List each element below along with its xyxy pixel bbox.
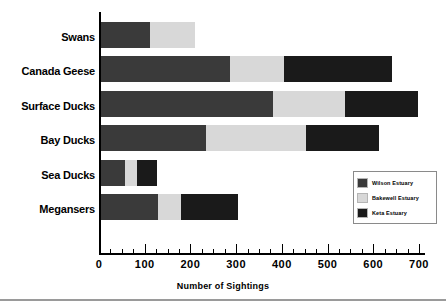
category-label: Bay Ducks: [3, 135, 95, 146]
category-label: Canada Geese: [3, 66, 95, 77]
x-tick-label: 400: [262, 258, 302, 270]
bar-segment-bakewell: [273, 91, 346, 117]
x-tick-label: 100: [125, 258, 165, 270]
x-tick-label: 200: [170, 258, 210, 270]
bar-segment-keta: [137, 160, 157, 186]
legend-label: Wilson Estuary: [372, 180, 413, 186]
bar-row: [100, 125, 379, 151]
bar-segment-keta: [345, 91, 417, 117]
bar-segment-wilson: [100, 91, 273, 117]
x-tick-minor: [202, 249, 203, 253]
x-tick-label: 700: [399, 258, 439, 270]
bar-segment-keta: [306, 125, 379, 151]
category-label: Surface Ducks: [3, 101, 95, 112]
x-tick-major: [282, 244, 283, 253]
legend-item: Wilson Estuary: [357, 176, 433, 190]
x-tick-minor: [293, 249, 294, 253]
legend-swatch-bakewell: [357, 193, 368, 203]
legend-label: Bakewell Estuary: [372, 195, 419, 201]
bar-segment-bakewell: [230, 56, 283, 82]
x-tick-minor: [179, 249, 180, 253]
bar-row: [100, 56, 392, 82]
x-axis-line: 0100200300400500600700: [99, 253, 425, 255]
x-tick-minor: [248, 249, 249, 253]
chart-legend: Wilson EstuaryBakewell EstuaryKeta Estua…: [353, 171, 437, 224]
x-tick-minor: [270, 249, 271, 253]
bar-segment-wilson: [100, 125, 206, 151]
bar-segment-bakewell: [150, 22, 194, 48]
x-tick-major: [145, 244, 146, 253]
x-tick-minor: [133, 249, 134, 253]
bar-row: [100, 22, 195, 48]
x-tick-major: [99, 244, 100, 253]
x-tick-major: [328, 244, 329, 253]
x-tick-minor: [110, 249, 111, 253]
bar-row: [100, 160, 157, 186]
category-axis-labels: SwansCanada GeeseSurface DucksBay DucksS…: [0, 0, 95, 240]
bar-segment-wilson: [100, 22, 150, 48]
bar-segment-wilson: [100, 56, 230, 82]
category-label: Swans: [3, 32, 95, 43]
x-tick-minor: [316, 249, 317, 253]
bar-segment-wilson: [100, 160, 125, 186]
bar-row: [100, 194, 238, 220]
x-tick-minor: [168, 249, 169, 253]
x-tick-minor: [385, 249, 386, 253]
y-axis-line: [99, 12, 101, 254]
x-tick-minor: [225, 249, 226, 253]
x-tick-label: 0: [79, 258, 119, 270]
x-tick-minor: [305, 249, 306, 253]
x-tick-major: [419, 244, 420, 253]
x-tick-minor: [213, 249, 214, 253]
x-tick-major: [190, 244, 191, 253]
bar-segment-keta: [284, 56, 392, 82]
bottom-divider: [0, 299, 446, 301]
legend-swatch-keta: [357, 208, 368, 218]
x-tick-label: 500: [308, 258, 348, 270]
x-tick-major: [373, 244, 374, 253]
x-tick-minor: [362, 249, 363, 253]
x-tick-minor: [408, 249, 409, 253]
legend-swatch-wilson: [357, 178, 368, 188]
bar-segment-bakewell: [158, 194, 181, 220]
bar-chart: SwansCanada GeeseSurface DucksBay DucksS…: [0, 0, 446, 305]
bar-row: [100, 91, 418, 117]
x-tick-minor: [396, 249, 397, 253]
x-tick-minor: [350, 249, 351, 253]
x-tick-minor: [259, 249, 260, 253]
legend-item: Keta Estuary: [357, 206, 433, 220]
legend-item: Bakewell Estuary: [357, 191, 433, 205]
category-label: Sea Ducks: [3, 170, 95, 181]
bar-segment-bakewell: [125, 160, 137, 186]
x-tick-label: 600: [353, 258, 393, 270]
x-tick-minor: [339, 249, 340, 253]
bar-segment-wilson: [100, 194, 158, 220]
category-label: Megansers: [3, 204, 95, 215]
x-tick-label: 300: [216, 258, 256, 270]
x-tick-minor: [122, 249, 123, 253]
bar-segment-bakewell: [206, 125, 306, 151]
legend-label: Keta Estuary: [372, 210, 407, 216]
bar-segment-keta: [181, 194, 238, 220]
x-tick-minor: [156, 249, 157, 253]
x-axis-title: Number of Sightings: [0, 281, 446, 291]
x-tick-major: [236, 244, 237, 253]
